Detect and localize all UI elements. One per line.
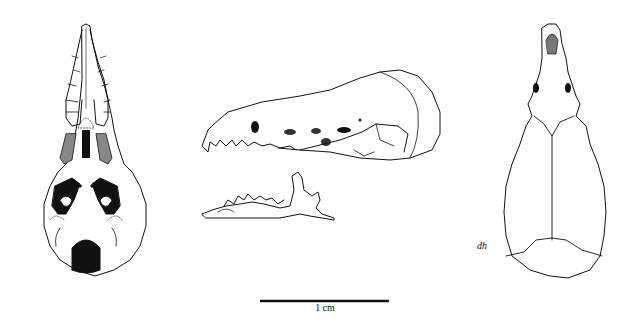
skull-illustration-figure: 1 cm dh bbox=[0, 0, 636, 324]
scale-bar-label: 1 cm bbox=[300, 302, 350, 313]
lateral-skull-view bbox=[202, 70, 440, 160]
mandible-view bbox=[202, 172, 334, 220]
skull-drawings bbox=[0, 0, 636, 324]
ventral-skull-view bbox=[44, 24, 146, 276]
artist-signature: dh bbox=[477, 240, 487, 251]
dorsal-skull-view bbox=[504, 24, 606, 278]
